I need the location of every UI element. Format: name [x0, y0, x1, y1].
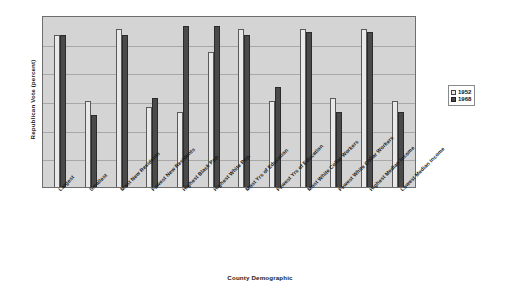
legend-item-1952: 1952 — [451, 89, 471, 95]
legend-item-1968: 1968 — [451, 96, 471, 102]
bar-1968-9 — [336, 112, 342, 187]
republican-vote-bar-chart: Republican Vote (percent) LargestSmalles… — [0, 0, 518, 299]
bars-layer — [43, 17, 415, 187]
bar-1968-7 — [275, 87, 281, 187]
light-square-icon — [451, 90, 456, 95]
legend: 1952 1968 — [448, 85, 475, 106]
bar-group — [106, 17, 137, 187]
x-axis-title: County Demographic — [190, 274, 330, 281]
bar-1968-1 — [91, 115, 97, 187]
bar-group — [45, 17, 76, 187]
bar-1968-2 — [122, 35, 128, 187]
bar-1968-0 — [60, 35, 66, 187]
bar-1968-6 — [244, 35, 250, 187]
bar-1968-11 — [398, 112, 404, 187]
bar-1968-4 — [183, 26, 189, 187]
legend-label: 1968 — [458, 96, 471, 102]
dark-square-icon — [451, 97, 456, 102]
bar-group — [76, 17, 107, 187]
legend-label: 1952 — [458, 89, 471, 95]
plot-area — [42, 16, 416, 188]
bar-1968-3 — [152, 98, 158, 187]
y-axis-title: Republican Vote (percent) — [29, 20, 36, 180]
